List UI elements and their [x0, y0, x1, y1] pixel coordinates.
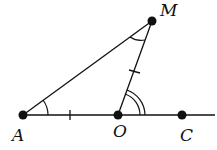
angle-arc-M [130, 37, 145, 40]
label-O: O [113, 121, 127, 141]
label-A: A [10, 125, 24, 145]
label-C: C [180, 125, 193, 145]
angle-arc-A [43, 100, 48, 115]
geometry-diagram: A O C M [0, 0, 217, 150]
point-M [148, 17, 157, 26]
label-M: M [159, 0, 178, 20]
point-O [114, 111, 123, 120]
point-C [178, 111, 187, 120]
segment-AM [23, 21, 152, 115]
point-A [19, 111, 28, 120]
